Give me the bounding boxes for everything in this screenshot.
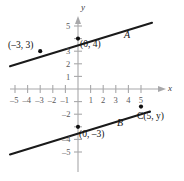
y-tick-label-3: 3	[66, 47, 70, 56]
point-marker-a1	[38, 49, 42, 53]
y-tick-label-1: 1	[66, 73, 70, 82]
x-axis	[10, 86, 166, 92]
x-tick-label--1: –1	[60, 96, 69, 105]
x-tick-label-2: 2	[101, 96, 105, 105]
y-tick-label-2: 2	[66, 60, 70, 69]
x-tick-label--5: –5	[10, 96, 19, 105]
graph-canvas	[0, 0, 184, 181]
point-label-a1: (–3, 3)	[8, 41, 33, 51]
point-label-c: C(5, y)	[137, 112, 164, 122]
x-tick-label--3: –3	[35, 96, 44, 105]
x-tick-label-1: 1	[89, 96, 93, 105]
point-label-a2: (0, 4)	[80, 40, 101, 50]
x-tick-label--2: –2	[48, 96, 57, 105]
point-label-b1: (0, –3)	[79, 130, 104, 140]
y-tick-label--2: –2	[62, 110, 71, 119]
x-axis-label: x	[168, 84, 172, 93]
x-tick-label--4: –4	[23, 96, 32, 105]
y-tick-label--4: –4	[62, 135, 71, 144]
point-marker-c	[139, 105, 143, 109]
coordinate-plane-figure: –5 –4 –3 –2 –1 1 2 3 4 5 5 3 2 1 –2 –4 –…	[0, 0, 184, 181]
y-tick-label--5: –5	[62, 148, 71, 157]
y-tick-label-5: 5	[66, 22, 70, 31]
x-tick-label-4: 4	[126, 96, 130, 105]
x-tick-label-3: 3	[114, 96, 118, 105]
y-axis-label: y	[81, 3, 85, 12]
line-label-a: A	[124, 30, 130, 40]
line-label-b: B	[117, 118, 123, 128]
x-tick-label-5: 5	[139, 96, 143, 105]
